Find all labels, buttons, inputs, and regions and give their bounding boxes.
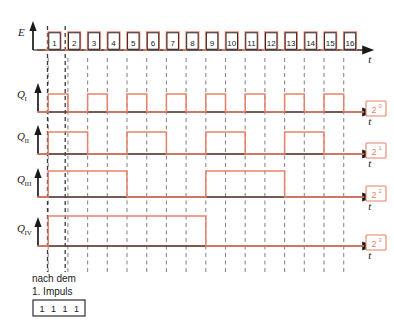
signal-row-qi: tQI20 [17,83,386,127]
timing-diagram-figure: tE12345678910111213141516tQI20tQII21tQII… [0,0,394,329]
state-digit: 1 [51,304,56,314]
caption-block: nach dem1. Impuls1111 [32,273,85,316]
y-axis-arrow [34,168,41,178]
signal-label-subscript: II [25,137,30,145]
bit-weight-value: 2 [371,239,376,249]
waveform-q_ii [37,132,364,154]
time-axis-label: t [368,115,372,127]
state-digit: 1 [62,304,67,314]
pulse-number: 11 [247,39,256,48]
signal-label: E [17,26,25,38]
waveform-q_iv [37,216,364,246]
bit-weight-value: 2 [371,147,376,157]
y-axis-arrow [29,21,36,31]
signal-row-qiii: tQIII22 [17,168,386,212]
pulse-number: 9 [210,39,215,48]
pulse-number: 12 [267,39,276,48]
waveform-q_iii [37,171,364,197]
pulse-number: 14 [306,39,315,48]
y-axis-arrow [34,125,41,135]
time-axis-label: t [368,249,372,261]
pulse-number: 16 [346,39,355,48]
caption-line: nach dem [32,273,76,284]
pulse-number: 1 [52,39,57,48]
signal-row-e: tE12345678910111213141516 [17,21,374,65]
timing-diagram-canvas: tE12345678910111213141516tQI20tQII21tQII… [0,0,394,329]
pulse-number: 7 [170,39,175,48]
pulse-number: 6 [151,39,156,48]
pulse-number: 8 [190,39,195,48]
state-digit: 1 [74,304,79,314]
time-axis-label: t [368,157,372,169]
state-digit: 1 [39,304,44,314]
pulse-number: 15 [326,39,335,48]
signal-row-qiv: tQIV23 [17,216,386,261]
pulse-number: 2 [72,39,77,48]
signal-label-subscript: III [25,180,33,188]
pulse-number: 5 [131,39,136,48]
caption-line: 1. Impuls [32,286,73,297]
bit-weight-value: 2 [371,105,376,115]
time-axis-label: t [368,53,372,65]
pulse-number: 13 [286,39,295,48]
y-axis-arrow [34,217,41,227]
time-axis-label: t [368,200,372,212]
pulse-number: 4 [111,39,116,48]
signal-row-qii: tQII21 [17,125,386,169]
waveform-q_i [37,94,364,112]
y-axis-arrow [34,83,41,93]
grid-lines [48,58,344,272]
pulse-number: 10 [227,39,236,48]
bit-weight-value: 2 [371,190,376,200]
pulse-number: 3 [92,39,97,48]
signal-label-subscript: IV [25,229,32,237]
signal-label-subscript: I [25,95,28,103]
